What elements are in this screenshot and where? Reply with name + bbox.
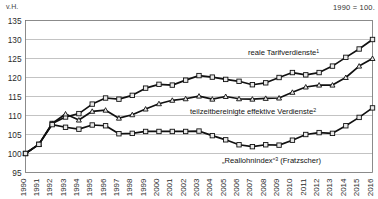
series-label-2: teilzeitbereinigte effektive Verdienste2 <box>190 107 316 116</box>
x-axis-tick-label: 1991 <box>32 178 41 196</box>
data-point-marker <box>37 142 41 146</box>
data-point-marker <box>303 85 308 90</box>
data-point-marker <box>103 96 107 100</box>
x-axis-tick-label: 2002 <box>179 178 188 196</box>
x-axis-tick-label: 2003 <box>192 178 201 196</box>
x-axis-tick-label: 1996 <box>99 178 108 196</box>
data-point-marker <box>143 129 147 133</box>
data-point-marker <box>250 144 254 148</box>
data-point-marker <box>290 138 294 142</box>
x-axis-tick-label: 1995 <box>85 178 94 196</box>
data-point-marker <box>357 47 361 51</box>
data-point-marker <box>183 96 188 101</box>
data-point-marker <box>170 129 174 133</box>
data-point-marker <box>63 111 68 116</box>
data-point-marker <box>90 109 95 114</box>
data-point-marker <box>77 111 81 115</box>
x-axis-tick-label: 2006 <box>232 178 241 196</box>
data-point-marker <box>237 143 241 147</box>
data-point-marker <box>304 132 308 136</box>
data-point-marker <box>130 112 135 117</box>
data-point-marker <box>157 129 161 133</box>
data-point-marker <box>143 86 147 90</box>
data-point-marker <box>183 129 187 133</box>
data-point-marker <box>90 123 94 127</box>
data-point-marker <box>103 124 107 128</box>
data-point-marker <box>370 37 374 41</box>
data-point-marker <box>130 131 134 135</box>
data-point-marker <box>344 55 348 59</box>
data-point-marker <box>90 102 94 106</box>
x-axis-tick-label: 2009 <box>272 178 281 196</box>
series-label-1: reale Tarifverdienste1 <box>248 48 319 57</box>
data-point-marker <box>23 151 27 155</box>
x-axis-tick-label: 2010 <box>285 178 294 196</box>
data-point-marker <box>277 143 281 147</box>
data-point-marker <box>197 129 201 133</box>
x-axis-tick-label: 1992 <box>45 178 54 196</box>
data-point-marker <box>344 124 348 128</box>
data-point-marker <box>197 94 202 99</box>
x-axis-tick-label: 1994 <box>72 178 81 196</box>
data-point-marker <box>237 79 241 83</box>
data-point-marker <box>63 125 67 129</box>
y-axis-tick-label: 130 <box>8 35 22 45</box>
x-axis-tick-label: 2013 <box>325 178 334 196</box>
data-point-marker <box>170 83 174 87</box>
x-axis-tick-label: 2007 <box>245 178 254 196</box>
chart-figure: v.H. 1990 = 100. 13513012512011511010510… <box>0 0 378 199</box>
data-point-marker <box>264 81 268 85</box>
x-axis-tick-label: 2011 <box>299 178 308 196</box>
data-point-marker <box>183 78 187 82</box>
x-axis-tick-label: 2008 <box>259 178 268 196</box>
data-point-marker <box>357 115 361 119</box>
data-point-marker <box>156 101 161 106</box>
y-axis-ticks-group: 13513012512011511010510095 <box>8 16 22 178</box>
x-axis-tick-label: 1990 <box>19 178 28 196</box>
data-point-marker <box>304 73 308 77</box>
data-point-marker <box>317 70 321 74</box>
data-point-marker <box>77 127 81 131</box>
x-axis-tick-label: 2012 <box>312 178 321 196</box>
x-axis-tick-label: 2014 <box>339 178 348 196</box>
data-point-marker <box>330 64 334 68</box>
y-axis-tick-label: 125 <box>8 54 22 64</box>
y-axis-tick-label: 95 <box>12 168 22 178</box>
y-axis-tick-label: 110 <box>8 111 22 121</box>
x-axis-ticks-group: 1990199119921993199419951996199719981999… <box>19 178 375 196</box>
data-point-marker <box>330 131 334 135</box>
x-axis-tick-label: 1999 <box>139 178 148 196</box>
y-axis-tick-label: 135 <box>8 16 22 26</box>
data-point-marker <box>117 132 121 136</box>
data-point-marker <box>103 108 108 113</box>
data-point-marker <box>50 122 54 126</box>
x-axis-tick-label: 2000 <box>152 178 161 196</box>
data-point-marker <box>250 97 255 102</box>
data-point-marker <box>264 143 268 147</box>
data-point-marker <box>143 107 148 112</box>
data-point-marker <box>223 77 227 81</box>
data-point-marker <box>237 96 242 101</box>
data-point-marker <box>277 75 281 79</box>
data-point-marker <box>157 82 161 86</box>
data-point-marker <box>117 97 121 101</box>
y-axis-tick-label: 120 <box>8 73 22 83</box>
data-point-marker <box>210 75 214 79</box>
data-point-marker <box>170 98 175 103</box>
data-point-marker <box>370 56 375 61</box>
line-chart-plot: 13513012512011511010510095 1990199119921… <box>0 0 378 199</box>
x-axis-tick-label: 2001 <box>165 178 174 196</box>
x-axis-tick-label: 2004 <box>205 178 214 196</box>
x-axis-tick-label: 2015 <box>352 178 361 196</box>
data-point-marker <box>317 83 322 88</box>
series-annotations-group: reale Tarifverdienste1teilzeitbereinigte… <box>190 48 322 165</box>
data-point-marker <box>290 90 295 95</box>
x-axis-tick-label: 1997 <box>112 178 121 196</box>
data-point-marker <box>210 97 215 102</box>
series-label-3: „Reallohnindex“3 (Fratzscher) <box>222 156 322 165</box>
x-axis-tick-label: 2016 <box>366 178 375 196</box>
y-axis-tick-label: 105 <box>8 130 22 140</box>
y-axis-tick-label: 100 <box>8 149 22 159</box>
data-point-marker <box>250 83 254 87</box>
data-point-marker <box>277 96 282 101</box>
